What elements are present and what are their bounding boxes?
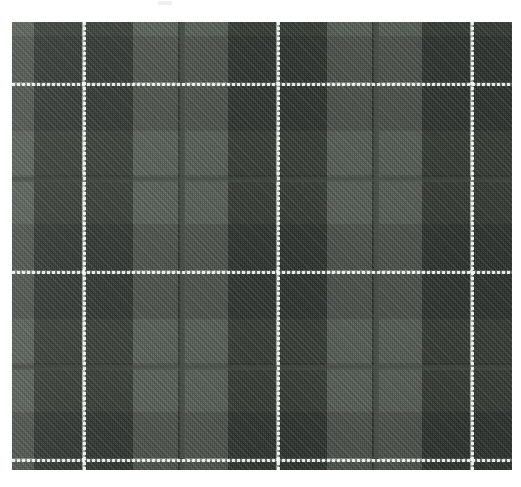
tartan-screenshot: { "page": { "title": "Tartan Fabric Swat… — [0, 0, 521, 487]
weft-bands-layer — [12, 22, 512, 470]
tartan-swatch — [12, 22, 512, 470]
guard-line-horizontal-3 — [12, 459, 512, 462]
bottom-white-margin — [0, 470, 521, 487]
fabric-sheen-overlay — [12, 22, 512, 470]
faint-artifact-mark — [158, 1, 172, 5]
warp-bands-layer — [12, 22, 512, 470]
guard-line-vertical-1 — [83, 22, 86, 470]
thin-warp-line-2 — [374, 22, 379, 470]
guard-line-vertical-3 — [471, 22, 474, 470]
left-white-margin — [0, 0, 12, 487]
guard-line-vertical-2 — [277, 22, 280, 470]
twill-weave-texture — [12, 22, 512, 470]
guard-line-horizontal-2 — [12, 271, 512, 274]
guard-line-horizontal-1 — [12, 83, 512, 86]
top-white-margin — [0, 0, 521, 22]
thin-warp-line-1 — [180, 22, 185, 470]
thin-weft-line-2 — [12, 365, 512, 370]
right-white-margin — [512, 0, 521, 487]
top-hairline — [0, 20, 521, 21]
thin-weft-line-1 — [12, 177, 512, 182]
yarn-grain-texture — [12, 22, 512, 470]
